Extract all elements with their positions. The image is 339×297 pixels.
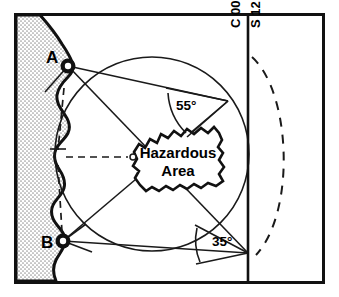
station-marker-a (61, 59, 76, 74)
station-label-b: B (41, 233, 53, 252)
nautical-chart-diagram: A B 55° 35° Hazardous Area C 000 S 12 (0, 0, 339, 297)
station-marker-b (56, 234, 71, 249)
hazard-label-line1: Hazardous (140, 144, 217, 161)
angle-label-55: 55° (176, 98, 196, 113)
angle-label-35: 35° (212, 234, 232, 249)
chart-canvas: A B 55° 35° Hazardous Area C 000 S 12 (0, 0, 339, 297)
speed-label: S 12 (248, 1, 263, 28)
reference-point-marker (130, 154, 136, 160)
hazard-label-line2: Area (161, 162, 195, 179)
station-b-inner (60, 238, 66, 244)
course-label: C 000 (228, 0, 243, 28)
station-label-a: A (46, 48, 58, 67)
station-a-inner (65, 63, 71, 69)
